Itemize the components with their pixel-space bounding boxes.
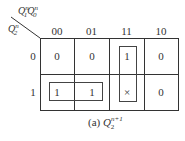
grid-line <box>178 38 179 111</box>
caption: (a) Qn+12 <box>88 115 114 131</box>
column-header-10: 10 <box>144 25 178 37</box>
cell-r0-c01: 0 <box>75 38 109 74</box>
column-header-01: 01 <box>74 25 109 37</box>
loop-row1-00-01 <box>49 82 103 101</box>
column-header-00: 00 <box>40 25 74 37</box>
cell-r1-c10: 0 <box>144 74 178 110</box>
column-header-11: 11 <box>109 25 144 37</box>
loop-col11 <box>119 46 137 102</box>
cell-r0-c00: 0 <box>40 38 74 74</box>
row-header-1: 1 <box>28 86 38 98</box>
corner-diagonal <box>10 16 42 40</box>
cell-r0-c10: 0 <box>144 38 178 74</box>
row-header-0: 0 <box>28 50 38 62</box>
